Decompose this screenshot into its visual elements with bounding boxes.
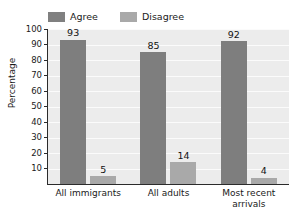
bar-agree: 93: [60, 40, 86, 184]
legend-swatch-agree: [48, 12, 65, 22]
x-axis-tick-label: All immigrants: [48, 188, 128, 199]
bar-disagree: 5: [90, 176, 116, 184]
bar-value-label: 93: [67, 28, 79, 38]
bar-value-label: 92: [228, 30, 240, 40]
plot-area: 9358514924: [48, 29, 289, 184]
y-tick-label: 40: [31, 118, 42, 127]
x-axis-label-line: All immigrants: [48, 188, 128, 199]
y-tick-label: 100: [26, 25, 42, 34]
x-axis-label-line: Most recent: [209, 188, 289, 199]
y-tick: 70: [31, 71, 48, 81]
y-tick-label: 30: [31, 133, 42, 142]
y-tick: 30: [31, 133, 48, 143]
legend-label-disagree: Disagree: [142, 12, 184, 22]
bar-group: 935: [48, 29, 128, 184]
bar-value-label: 14: [177, 151, 189, 161]
y-tick: 60: [31, 86, 48, 96]
bar-value-label: 85: [147, 41, 159, 51]
bar-value-label: 5: [100, 165, 106, 175]
bar-group: 8514: [128, 29, 208, 184]
y-tick: 90: [31, 40, 48, 50]
y-tick-label: 90: [31, 40, 42, 49]
y-axis-ticks: 102030405060708090100: [0, 29, 48, 184]
x-axis-label-line: All adults: [128, 188, 208, 199]
y-tick: 80: [31, 55, 48, 65]
bar-agree: 92: [221, 41, 247, 184]
legend-label-agree: Agree: [70, 12, 98, 22]
y-tick-label: 10: [31, 164, 42, 173]
bar-value-label: 4: [261, 166, 267, 176]
bar-group: 924: [209, 29, 289, 184]
y-axis-line: [47, 29, 48, 185]
y-tick-label: 70: [31, 71, 42, 80]
y-tick: 50: [31, 102, 48, 112]
bar-agree: 85: [140, 52, 166, 184]
x-axis-tick-label: Most recentarrivals: [209, 188, 289, 210]
x-axis-labels: All immigrantsAll adultsMost recentarriv…: [48, 188, 289, 220]
y-tick-label: 50: [31, 102, 42, 111]
legend-swatch-disagree: [120, 12, 137, 22]
legend-item-agree: Agree: [48, 12, 98, 22]
legend-item-disagree: Disagree: [120, 12, 184, 22]
x-axis-tick-label: All adults: [128, 188, 208, 199]
chart-legend: Agree Disagree: [48, 9, 248, 25]
y-tick-label: 80: [31, 56, 42, 65]
y-tick-label: 60: [31, 87, 42, 96]
bar-disagree: 14: [170, 162, 196, 184]
y-tick: 40: [31, 117, 48, 127]
bars-layer: 9358514924: [48, 29, 289, 184]
x-axis-label-line: arrivals: [209, 199, 289, 210]
bar-chart: Agree Disagree Percentage 10203040506070…: [0, 0, 296, 222]
y-tick: 10: [31, 164, 48, 174]
y-tick: 20: [31, 148, 48, 158]
x-axis-line: [47, 184, 289, 185]
y-tick: 100: [26, 24, 48, 34]
y-tick-label: 20: [31, 149, 42, 158]
